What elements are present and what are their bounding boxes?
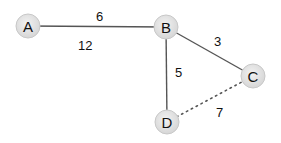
node-d: D bbox=[155, 110, 179, 134]
node-c: C bbox=[241, 64, 265, 88]
node-label: B bbox=[161, 19, 171, 36]
edge-weight-label: 3 bbox=[214, 34, 221, 49]
edge-a-b bbox=[28, 26, 166, 27]
floating-labels-layer: 12 bbox=[78, 38, 92, 53]
node-b: B bbox=[154, 15, 178, 39]
floating-weight-label: 12 bbox=[78, 38, 92, 53]
edge-d-c bbox=[167, 76, 253, 122]
nodes-layer: ABCD bbox=[16, 14, 265, 134]
graph-diagram: 6357 ABCD 12 bbox=[0, 0, 281, 143]
graph-svg: 6357 ABCD 12 bbox=[0, 0, 281, 143]
edge-weight-label: 6 bbox=[96, 9, 103, 24]
node-a: A bbox=[16, 14, 40, 38]
edge-b-d bbox=[166, 27, 167, 122]
node-label: C bbox=[248, 68, 259, 85]
node-label: A bbox=[23, 18, 33, 35]
node-label: D bbox=[162, 114, 173, 131]
edge-weight-label: 5 bbox=[175, 65, 182, 80]
edge-weight-label: 7 bbox=[216, 105, 223, 120]
